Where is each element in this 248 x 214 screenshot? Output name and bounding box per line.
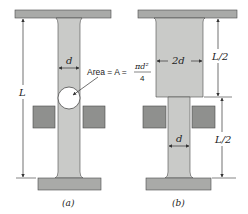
grip-left-b [143,106,166,128]
grip-right-a [83,106,105,128]
area-denominator: 4 [140,74,145,83]
top-plate-a [15,10,111,18]
cross-section-circle [58,87,80,109]
narrow-width-label: d [176,133,182,144]
width-label-a: d [66,55,72,66]
length-label-a: L [18,87,26,98]
panel-a: d L Area = A = πd² 4 (a) [15,10,151,208]
caption-b: (b) [172,198,185,208]
panel-b: 2d d L/2 L/2 (b) [138,10,237,208]
bottom-plate-a [38,178,101,190]
bottom-plate-b [146,178,211,190]
area-label: Area = A = [87,67,127,77]
wide-width-label: 2d [171,55,185,66]
specimen-diagram: d L Area = A = πd² 4 (a) 2d d L/2 [0,0,248,214]
caption-a: (a) [62,198,75,208]
grip-right-b [192,106,215,128]
upper-length-label: L/2 [211,51,228,62]
top-plate-b [138,10,237,18]
lower-length-label: L/2 [214,134,231,145]
grip-left-a [33,106,55,128]
area-numerator: πd² [134,62,149,71]
